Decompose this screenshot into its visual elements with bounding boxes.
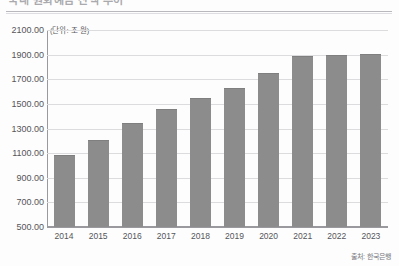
bar-series <box>47 30 388 227</box>
bar-slot <box>320 30 354 227</box>
header-divider <box>6 11 392 12</box>
bar-slot <box>149 30 183 227</box>
bar-slot <box>115 30 149 227</box>
y-tick-label: 500.00 <box>16 222 44 232</box>
y-tick-label: 1700.00 <box>11 74 44 84</box>
x-tick-label: 2015 <box>81 231 115 241</box>
bar[interactable] <box>224 88 245 227</box>
header-divider-secondary <box>6 13 392 14</box>
bar[interactable] <box>156 109 177 227</box>
x-tick-label: 2022 <box>320 231 354 241</box>
y-tick-label: 2100.00 <box>11 25 44 35</box>
bar[interactable] <box>292 56 313 227</box>
y-tick-label: 1500.00 <box>11 99 44 109</box>
gridline <box>47 227 388 228</box>
bar-slot <box>47 30 81 227</box>
x-tick-label: 2021 <box>286 231 320 241</box>
bar[interactable] <box>326 55 347 227</box>
y-axis-labels: 2100.001900.001700.001500.001300.001100.… <box>0 30 44 227</box>
plot-area <box>47 30 388 227</box>
y-tick-label: 700.00 <box>16 197 44 207</box>
x-tick-label: 2017 <box>149 231 183 241</box>
chart-page: 국내 원화예금 잔액 추이 (단위: 조 원) 2100.001900.0017… <box>0 0 399 266</box>
y-tick-label: 1300.00 <box>11 124 44 134</box>
bar-slot <box>217 30 251 227</box>
bar-slot <box>354 30 388 227</box>
bar[interactable] <box>54 155 75 227</box>
y-tick-label: 1900.00 <box>11 50 44 60</box>
bar-slot <box>252 30 286 227</box>
x-tick-label: 2020 <box>252 231 286 241</box>
x-tick-label: 2019 <box>217 231 251 241</box>
page-title-strip: 국내 원화예금 잔액 추이 <box>0 0 399 11</box>
y-tick-label: 900.00 <box>16 173 44 183</box>
y-tick-label: 1100.00 <box>12 148 44 158</box>
x-axis-labels: 2014201520162017201820192020202120222023 <box>47 231 388 241</box>
bar-slot <box>183 30 217 227</box>
bar-slot <box>81 30 115 227</box>
x-tick-label: 2014 <box>47 231 81 241</box>
x-tick-label: 2023 <box>354 231 388 241</box>
x-tick-label: 2016 <box>115 231 149 241</box>
source-note: 출처: 한국은행 <box>351 251 391 261</box>
bar[interactable] <box>88 140 109 227</box>
bar[interactable] <box>190 98 211 227</box>
bar-slot <box>286 30 320 227</box>
bar[interactable] <box>258 73 279 227</box>
page-title: 국내 원화예금 잔액 추이 <box>8 0 124 7</box>
x-tick-label: 2018 <box>183 231 217 241</box>
bar[interactable] <box>360 54 381 227</box>
bar[interactable] <box>122 123 143 227</box>
